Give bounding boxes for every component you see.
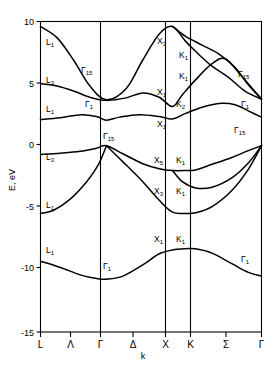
x-tick-label-L: L (38, 339, 44, 350)
band-symmetry-label: Γ1 (241, 99, 250, 110)
band-symmetry-label: K1 (179, 71, 189, 82)
band-curve (41, 103, 262, 120)
band-symmetry-label: Γ15 (81, 65, 93, 76)
x-tick-label-K: K (187, 339, 194, 350)
y-tick-label: -5 (26, 202, 34, 212)
plot-frame (41, 22, 262, 333)
y-tick-label: -10 (21, 263, 34, 273)
band-structure-figure: 10 5 0 -5 -10 -15 L Λ Γ Δ X K Σ Γ E, eV … (0, 0, 279, 369)
band-curves (41, 26, 262, 279)
y-tick-label: 5 (29, 79, 34, 89)
band-symmetry-label: K1 (176, 186, 186, 197)
y-tick-label: 0 (29, 140, 34, 150)
y-axis-ticks (37, 22, 41, 333)
band-symmetry-label: L3 (46, 75, 55, 86)
y-tick-label: 10 (24, 17, 34, 27)
x-tick-label-sigma: Σ (223, 339, 229, 350)
y-tick-labels: 10 5 0 -5 -10 -15 (21, 17, 34, 338)
band-curve (41, 58, 262, 106)
band-curve (172, 26, 261, 99)
band-symmetry-label: X3 (154, 186, 164, 197)
x-tick-label-gamma2: Γ (259, 339, 265, 350)
band-curve (41, 145, 262, 170)
band-symmetry-label: X5 (154, 155, 164, 166)
y-tick-label: -15 (21, 328, 34, 338)
band-symmetry-label: K1 (179, 50, 189, 61)
band-symmetry-label: Γ15 (103, 131, 115, 142)
x-tick-labels: L Λ Γ Δ X K Σ Γ (38, 339, 265, 350)
band-curve (41, 248, 262, 279)
band-symmetry-label: L1 (46, 37, 55, 48)
band-symmetry-label: L1 (46, 104, 55, 115)
x-tick-label-gamma1: Γ (98, 339, 104, 350)
band-symmetry-label: Γ1 (241, 254, 250, 265)
band-symmetry-label: Γ1 (103, 261, 112, 272)
band-symmetry-label: K2 (176, 99, 186, 110)
band-symmetry-label: L1 (46, 245, 55, 256)
band-symmetry-label: K1 (176, 155, 186, 166)
x-axis-ticks (41, 332, 262, 337)
band-symmetry-label: X1 (154, 234, 164, 245)
band-curve (172, 146, 261, 189)
band-symmetry-label: L1 (46, 200, 55, 211)
band-symmetry-label: Γ15 (238, 69, 250, 80)
x-tick-label-delta: Δ (130, 339, 137, 350)
band-curve (41, 26, 262, 100)
x-axis-title: k (141, 351, 146, 361)
x-tick-label-X: X (162, 339, 169, 350)
band-curve (106, 146, 261, 214)
y-axis-title: E, eV (7, 169, 17, 191)
band-symmetry-label: K1 (176, 234, 186, 245)
x-tick-label-lambda: Λ (67, 339, 74, 350)
band-symmetry-label: Γ1 (85, 99, 94, 110)
band-symmetry-label: Γ15 (234, 125, 246, 136)
band-structure-plot: 10 5 0 -5 -10 -15 L Λ Γ Δ X K Σ Γ E, eV … (0, 0, 279, 369)
